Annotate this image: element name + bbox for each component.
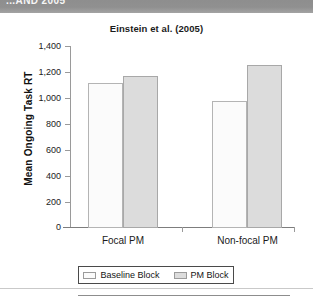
header-band-text: ...AND 2005 (6, 0, 65, 6)
x-tick-end (294, 227, 295, 232)
y-tick-label-200: 200 (17, 198, 61, 207)
y-tick-1400 (65, 46, 70, 47)
y-tick-0 (63, 227, 70, 228)
y-tick-label-1400: 1,400 (17, 42, 61, 51)
x-axis-label-nonfocal: Non-focal PM (200, 235, 295, 246)
legend-item-pm[interactable]: PM Block (174, 270, 229, 280)
y-tick-label-1200: 1,200 (17, 68, 61, 77)
y-tick-label-400: 400 (17, 172, 61, 181)
x-tick-middle (182, 227, 183, 232)
chart-legend: Baseline Block PM Block (78, 266, 234, 284)
bar-nonfocal-baseline[interactable] (212, 101, 247, 228)
y-axis-line (70, 46, 71, 228)
chart-figure: Einstein et al. (2005) Mean Ongoing Task… (0, 13, 313, 283)
legend-swatch-pm-icon (174, 272, 187, 279)
y-tick-label-1000: 1,000 (17, 94, 61, 103)
bar-focal-baseline[interactable] (88, 83, 123, 228)
header-band: ...AND 2005 (0, 0, 313, 13)
y-tick-label-800: 800 (17, 120, 61, 129)
x-axis-label-focal: Focal PM (83, 235, 163, 246)
y-tick-label-0: 0 (17, 223, 61, 232)
legend-swatch-baseline-icon (83, 272, 96, 279)
y-tick-label-600: 600 (17, 146, 61, 155)
y-tick-600 (65, 150, 70, 151)
y-tick-1000 (65, 98, 70, 99)
legend-item-baseline[interactable]: Baseline Block (83, 270, 159, 280)
plot-area: Mean Ongoing Task RT 1,400 1,200 1,000 8… (0, 13, 313, 245)
y-tick-800 (65, 124, 70, 125)
y-tick-400 (65, 176, 70, 177)
legend-label-pm: PM Block (191, 270, 229, 280)
y-tick-200 (65, 202, 70, 203)
bar-focal-pm[interactable] (123, 76, 158, 228)
legend-label-baseline: Baseline Block (100, 270, 159, 280)
y-tick-1200 (65, 72, 70, 73)
page-bottom-rule (0, 288, 313, 289)
bar-nonfocal-pm[interactable] (247, 65, 282, 228)
